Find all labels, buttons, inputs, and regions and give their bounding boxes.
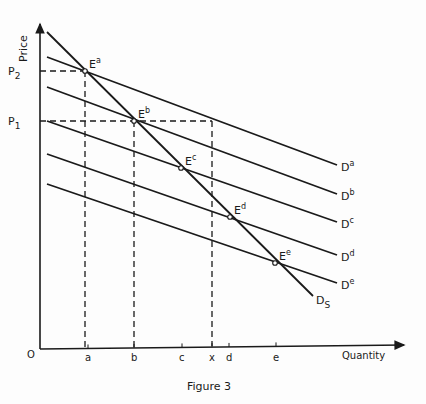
equilibrium-point-b [132, 119, 137, 124]
equilibrium-point-a [83, 69, 88, 74]
origin-label: O [27, 349, 35, 360]
demand-curve-c [47, 121, 337, 222]
equilibrium-label-c: Ec [185, 153, 196, 168]
equilibrium-label-e: Ee [279, 248, 291, 263]
demand-label-e: De [341, 277, 354, 292]
equilibrium-point-c [179, 166, 184, 171]
equilibrium-label-a: Ea [89, 56, 101, 71]
equilibrium-point-e [273, 261, 278, 266]
demand-label-d: Dd [341, 249, 355, 264]
demand-curve-b [47, 87, 337, 194]
figure-3-diagram: DaDbDcDdDeDSEaEbEcEdEeP2P1abcxde Price Q… [0, 0, 426, 404]
quantity-label-d: d [226, 352, 232, 363]
quantity-label-b: b [131, 352, 137, 363]
demand-label-a: Da [341, 159, 354, 174]
y-axis-label: Price [17, 35, 30, 62]
demand-curve-d [47, 154, 337, 255]
demand-curve-a [47, 57, 337, 165]
figure-caption: Figure 3 [187, 380, 231, 393]
demand-label-b: Db [341, 188, 355, 203]
equilibrium-point-d [228, 215, 233, 220]
demand-label-c: Dc [341, 216, 354, 231]
quantity-label-a: a [85, 352, 91, 363]
x-axis [40, 345, 404, 349]
x-axis-label: Quantity [342, 350, 385, 361]
quantity-label-c: c [179, 352, 185, 363]
equilibrium-label-b: Eb [138, 106, 150, 121]
demand-curve-e [47, 184, 337, 283]
demand-supply-chart: DaDbDcDdDeDSEaEbEcEdEeP2P1abcxde Price Q… [0, 0, 426, 404]
equilibrium-label-d: Ed [234, 202, 246, 217]
price-label-p2: P2 [8, 65, 20, 81]
quantity-label-e: e [273, 352, 279, 363]
price-label-p1: P1 [8, 115, 20, 131]
supply-label: DS [316, 294, 330, 310]
quantity-label-x: x [209, 352, 215, 363]
